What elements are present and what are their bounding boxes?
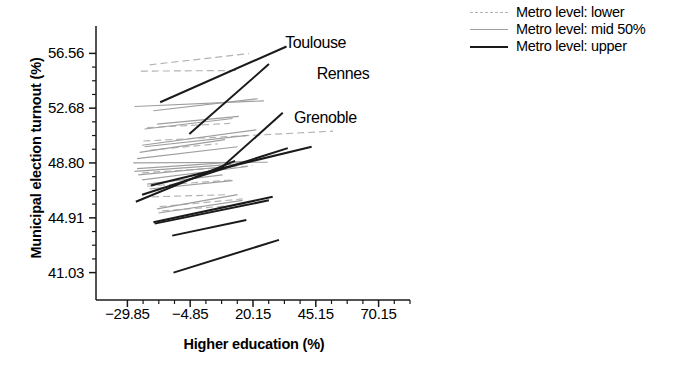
series-line-upper-9	[172, 220, 246, 236]
series-line-upper-7	[153, 197, 272, 222]
y-tick-label: 41.03	[22, 265, 84, 280]
annotation-grenoble: Grenoble	[294, 110, 357, 126]
series-line-lower-8	[152, 195, 227, 197]
series-line-lower-1	[150, 54, 249, 65]
y-tick-label-text: 44.91	[24, 210, 84, 225]
series-line-mid-6	[145, 135, 248, 146]
y-tick-label: 52.68	[22, 100, 84, 115]
legend-label-mid: Metro level: mid 50%	[516, 21, 645, 38]
legend-item-lower: Metro level: lower	[470, 4, 690, 21]
series-line-upper-8	[155, 200, 269, 223]
y-tick-label-text: 56.56	[24, 45, 84, 60]
legend: Metro level: lower Metro level: mid 50% …	[470, 4, 690, 55]
y-tick-label: 56.56	[22, 45, 84, 60]
y-tick-label: 48.80	[22, 155, 84, 170]
legend-item-mid: Metro level: mid 50%	[470, 21, 690, 38]
y-tick-label-text: 41.03	[24, 265, 84, 280]
y-tick-label-text: 48.80	[24, 155, 84, 170]
legend-line-upper-icon	[470, 46, 508, 48]
annotation-toulouse: Toulouse	[285, 35, 346, 51]
series-line-lower-2	[141, 70, 236, 71]
series-line-upper-1	[160, 46, 286, 102]
series-line-mid-8	[137, 147, 237, 159]
x-axis-title: Higher education (%)	[96, 336, 412, 352]
series-line-upper-10	[174, 240, 280, 273]
annotation-rennes: Rennes	[317, 66, 370, 82]
legend-label-lower: Metro level: lower	[516, 4, 624, 21]
legend-line-mid-icon	[470, 29, 508, 30]
y-tick-label: 44.91	[22, 210, 84, 225]
y-tick-label-text: 52.68	[24, 100, 84, 115]
chart-figure: Municipal election turnout (%) Higher ed…	[0, 0, 693, 367]
legend-line-lower-icon	[470, 12, 508, 13]
x-tick-label: 70.15	[341, 306, 417, 321]
legend-item-upper: Metro level: upper	[470, 38, 690, 55]
legend-label-upper: Metro level: upper	[516, 38, 627, 55]
